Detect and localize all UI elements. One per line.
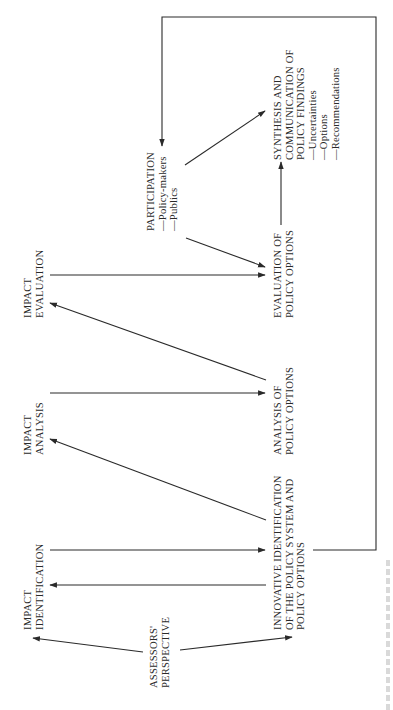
arrow-analysis-options-to-impact-evaluation	[50, 303, 266, 380]
node-impact-identification: IMPACT IDENTIFICATION	[22, 544, 45, 630]
cropped-figure-caption	[386, 560, 390, 710]
node-impact-analysis: IMPACT ANALYSIS	[22, 402, 45, 455]
node-synthesis: SYNTHESIS AND COMMUNICATION OF POLICY FI…	[272, 49, 342, 160]
arrow-assessors-to-innovative	[180, 637, 292, 650]
node-innovative-identification: INNOVATIVE IDENTIFICATION OF THE POLICY …	[272, 475, 307, 630]
node-assessors-perspective: ASSESSORS' PERSPECTIVE	[148, 617, 171, 688]
arrow-assessors-to-impact-identification	[33, 638, 143, 652]
arrow-innovative-to-impact-analysis	[50, 439, 266, 520]
node-participation: PARTICIPATION —Policy-makers —Publics	[145, 152, 180, 231]
node-evaluation-policy-options: EVALUATION OF POLICY OPTIONS	[272, 230, 295, 318]
node-analysis-policy-options: ANALYSIS OF POLICY OPTIONS	[272, 367, 295, 455]
policy-assessment-flow-diagram: SYNTHESIS AND COMMUNICATION OF POLICY FI…	[0, 0, 393, 710]
arrow-participation-to-evaluation	[186, 238, 265, 267]
node-impact-evaluation: IMPACT EVALUATION	[22, 250, 45, 318]
arrow-participation-to-synthesis	[185, 111, 265, 165]
feedback-loop-arrow	[162, 17, 376, 550]
